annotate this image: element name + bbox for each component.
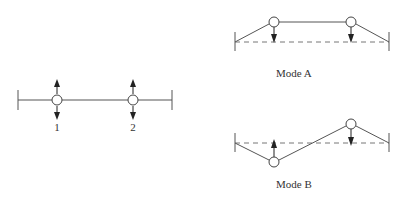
mass-node-1 — [269, 157, 279, 167]
string-segment — [235, 143, 269, 160]
reference-system: 1 2 — [18, 79, 172, 133]
mass-node-2 — [346, 17, 356, 27]
mass-node-2 — [128, 95, 138, 105]
node-1-up-arrow-icon — [271, 139, 277, 157]
mode-a-diagram: Mode A — [235, 17, 389, 79]
node-2-down-arrow-icon — [130, 106, 136, 120]
node-2-down-arrow-icon — [348, 27, 354, 43]
mode-a-caption: Mode A — [276, 67, 312, 79]
mass-node-1 — [269, 17, 279, 27]
mass-node-1 — [52, 95, 62, 105]
node-2-label: 2 — [130, 121, 136, 133]
mass-node-2 — [346, 119, 356, 129]
node-1-down-arrow-icon — [54, 106, 60, 120]
mode-b-diagram: Mode B — [235, 119, 389, 190]
string-segment — [356, 24, 389, 42]
node-1-up-arrow-icon — [54, 79, 60, 94]
node-1-down-arrow-icon — [271, 27, 277, 43]
string-segment — [235, 24, 269, 42]
string-segment — [356, 126, 389, 143]
mode-b-caption: Mode B — [276, 178, 312, 190]
node-2-up-arrow-icon — [130, 79, 136, 94]
node-1-label: 1 — [54, 121, 60, 133]
vibration-modes-diagram: 1 2 Mode A — [0, 0, 410, 199]
